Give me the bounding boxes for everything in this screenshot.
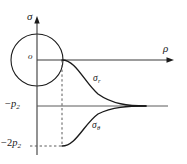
stress-distribution-figure: σ ρ o σr σθ −p2 −2p2: [0, 0, 187, 164]
minus-p2-subscript: 2: [16, 103, 20, 111]
hoop-stress-curve: [62, 106, 146, 146]
origin-label: o: [28, 52, 33, 61]
hoop-stress-symbol: σ: [92, 120, 97, 130]
sigma-axis-arrowhead: [34, 16, 39, 24]
rho-axis-arrowhead: [167, 57, 175, 62]
radial-stress-curve-label: σr: [93, 74, 100, 84]
hoop-stress-subscript: θ: [97, 124, 100, 131]
radial-stress-symbol: σ: [93, 73, 98, 83]
hoop-stress-curve-label: σθ: [92, 121, 100, 131]
radial-stress-curve: [62, 60, 146, 106]
minus-p2-tick-label: −p2: [5, 99, 20, 111]
minus-2p2-subscript: 2: [17, 142, 21, 150]
rho-axis-label: ρ: [163, 43, 168, 54]
minus-2p2-tick-label: −2p2: [1, 138, 21, 150]
sigma-axis-label: σ: [27, 11, 32, 22]
radial-stress-subscript: r: [98, 77, 101, 84]
